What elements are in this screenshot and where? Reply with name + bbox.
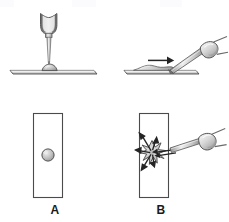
blood-smear bbox=[134, 65, 174, 70]
dropper bbox=[41, 14, 57, 68]
figure-root: A B bbox=[0, 0, 229, 222]
panel-label-a: A bbox=[35, 203, 75, 217]
panel-label-b: B bbox=[141, 203, 181, 217]
blood-drop bbox=[42, 64, 57, 71]
figure-illustration bbox=[0, 0, 229, 222]
direction-arrow bbox=[148, 57, 174, 65]
panel-b-top-view bbox=[136, 114, 227, 198]
blood-drop-circle bbox=[42, 149, 54, 161]
scan-artifact-right bbox=[160, 0, 182, 7]
spreader-slide bbox=[170, 129, 227, 153]
microscope-slide-side-view bbox=[124, 70, 199, 74]
panel-a-side-view bbox=[10, 14, 97, 75]
panel-b-side-view bbox=[124, 37, 228, 74]
scan-artifact-left bbox=[0, 0, 14, 7]
panel-a-top-view bbox=[34, 114, 63, 198]
scan-artifact-mid bbox=[72, 0, 96, 7]
spreader-slide bbox=[169, 37, 228, 74]
